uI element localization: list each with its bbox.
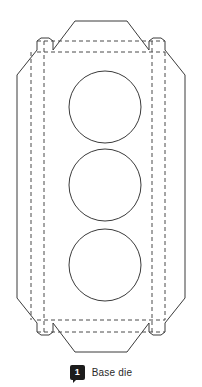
legend-marker-number: 1 [75, 368, 80, 377]
dieline-drawing [0, 0, 202, 387]
legend-marker-icon: 1 [70, 365, 85, 380]
dieline-figure [0, 0, 202, 387]
legend-label: Base die [92, 367, 133, 378]
legend: 1 Base die [0, 358, 202, 387]
die-cut-hole-middle [69, 149, 141, 221]
die-cut-hole-bottom [69, 229, 141, 301]
die-cut-hole-top [69, 71, 141, 143]
